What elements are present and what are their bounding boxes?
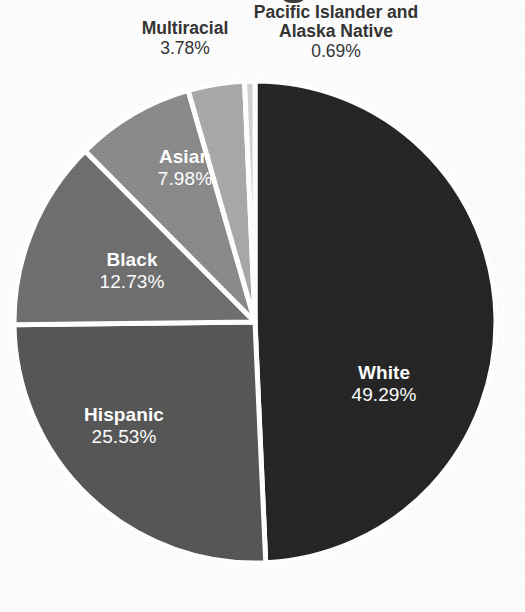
slice-label-multiracial-value: 3.78% xyxy=(119,39,251,59)
slice-label-asian-value: 7.98% xyxy=(110,168,260,190)
slice-label-white-name: White xyxy=(309,362,459,384)
slice-label-white: White 49.29% xyxy=(309,362,459,405)
slice-label-pacific-islander-name-line1: Pacific Islander and xyxy=(254,2,418,22)
slice-label-pacific-islander-name-line2: Alaska Native xyxy=(279,21,393,41)
slice-label-hispanic: Hispanic 25.53% xyxy=(44,404,204,447)
slice-label-asian: Asian 7.98% xyxy=(110,146,260,189)
slice-label-black-name: Black xyxy=(57,249,207,271)
slice-label-pacific-islander: Pacific Islander and Alaska Native 0.69% xyxy=(243,3,429,61)
slice-label-hispanic-value: 25.53% xyxy=(44,426,204,448)
pie-slice-white xyxy=(255,81,496,563)
slice-label-pacific-islander-value: 0.69% xyxy=(243,42,429,62)
slice-label-white-value: 49.29% xyxy=(309,384,459,406)
slice-label-hispanic-name: Hispanic xyxy=(44,404,204,426)
pie-chart xyxy=(0,0,525,612)
slice-label-black: Black 12.73% xyxy=(57,249,207,292)
slice-label-pacific-islander-name: Pacific Islander and Alaska Native xyxy=(243,3,429,42)
slice-label-multiracial: Multiracial 3.78% xyxy=(119,19,251,59)
pie-chart-svg xyxy=(0,0,525,612)
slice-label-asian-name: Asian xyxy=(110,146,260,168)
chart-page: White 49.29% Hispanic 25.53% Black 12.73… xyxy=(0,0,525,612)
slice-label-multiracial-name: Multiracial xyxy=(119,19,251,39)
slice-label-black-value: 12.73% xyxy=(57,271,207,293)
